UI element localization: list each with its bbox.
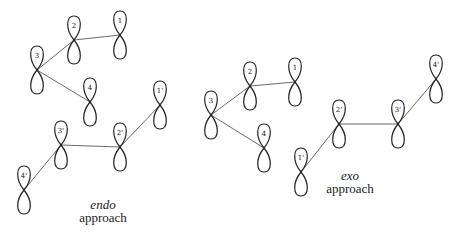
atom-number-label: 3'	[58, 127, 64, 135]
exo-p-orbital: 4	[258, 124, 271, 172]
atom-number-label: 3	[35, 52, 39, 60]
atom-number-label: 1	[118, 17, 122, 25]
atom-number-label: 4	[262, 130, 267, 138]
atom-number-label: 4'	[21, 172, 27, 180]
endo-p-orbital: 4'	[18, 166, 31, 214]
atom-number-label: 4'	[433, 61, 439, 69]
exo-bond	[301, 124, 339, 172]
endo-caption: approach	[79, 210, 127, 225]
orbital-lower-lobe	[430, 79, 443, 103]
atom-number-label: 3'	[395, 106, 401, 114]
orbital-lower-lobe	[333, 124, 346, 148]
endo-p-orbital: 1'	[154, 81, 167, 129]
exo-diagram: 12341'2'3'4'	[205, 55, 443, 196]
orbital-lower-lobe	[18, 190, 31, 214]
endo-bond	[120, 105, 160, 147]
exo-caption: approach	[326, 181, 374, 196]
endo-p-orbital: 4	[84, 78, 97, 126]
orbital-lower-lobe	[31, 70, 44, 94]
endo-bond	[24, 145, 61, 190]
atom-number-label: 1'	[298, 154, 304, 162]
orbital-lower-lobe	[295, 172, 308, 196]
exo-p-orbital: 4'	[430, 55, 443, 103]
endo-p-orbital: 1	[114, 11, 127, 59]
endo-diagram: 12341'2'3'4'	[18, 11, 167, 214]
exo-bond	[250, 82, 295, 86]
endo-bond	[37, 40, 74, 70]
exo-p-orbital: 1'	[295, 148, 308, 196]
orbital-lower-lobe	[392, 124, 405, 148]
atom-number-label: 2	[72, 22, 76, 30]
orbital-lower-lobe	[114, 147, 127, 171]
orbital-diagram: 12341'2'3'4'12341'2'3'4' endo approach e…	[0, 0, 462, 233]
exo-bond	[398, 79, 436, 124]
orbital-lower-lobe	[289, 82, 302, 106]
atom-number-label: 2'	[117, 129, 123, 137]
atom-number-label: 1'	[157, 87, 163, 95]
endo-p-orbital: 3	[31, 46, 44, 94]
orbital-lower-lobe	[205, 115, 218, 139]
orbital-lower-lobe	[114, 35, 127, 59]
endo-bond	[74, 35, 120, 40]
atom-number-label: 1	[293, 64, 297, 72]
exo-p-orbital: 3	[205, 91, 218, 139]
atom-number-label: 2	[248, 68, 252, 76]
orbital-lower-lobe	[258, 148, 271, 172]
endo-bond	[61, 145, 120, 147]
exo-bond	[211, 115, 264, 148]
atom-number-label: 3	[209, 97, 213, 105]
orbital-lower-lobe	[84, 102, 97, 126]
endo-bond	[37, 70, 90, 102]
orbital-lower-lobe	[55, 145, 68, 169]
orbital-diagram-svg: 12341'2'3'4'12341'2'3'4' endo approach e…	[0, 0, 462, 233]
orbital-lower-lobe	[154, 105, 167, 129]
atom-number-label: 4	[88, 84, 93, 92]
atom-number-label: 2'	[336, 106, 342, 114]
endo-p-orbital: 2	[68, 16, 81, 64]
